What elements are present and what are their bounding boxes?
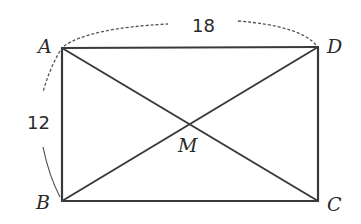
- vertex-label-b: B: [35, 191, 50, 213]
- top-dimension-arc-right: [238, 21, 316, 45]
- rectangle-diagram: A D B C M 18 12: [0, 0, 361, 224]
- vertex-label-c: C: [327, 193, 342, 215]
- top-length-label: 18: [192, 15, 215, 36]
- top-dimension-arc-left: [64, 24, 168, 46]
- vertex-label-d: D: [326, 35, 342, 57]
- intersection-label-m: M: [177, 134, 198, 156]
- left-dimension-arc-bottom: [43, 147, 60, 197]
- vertex-label-a: A: [36, 35, 52, 57]
- left-length-label: 12: [27, 112, 50, 133]
- left-dimension-arc-top: [43, 51, 60, 92]
- side-AD: [62, 47, 318, 48]
